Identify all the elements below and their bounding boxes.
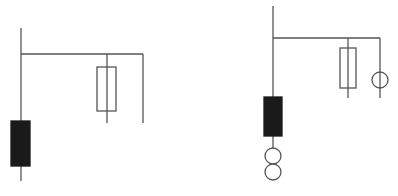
left-dark-block-symbol xyxy=(11,121,30,166)
transformer-coil-lower xyxy=(265,164,281,180)
left-circuit xyxy=(11,28,143,181)
transformer-coil-upper xyxy=(265,148,281,164)
right-dark-block-symbol xyxy=(264,97,282,136)
right-circuit xyxy=(264,6,388,180)
circuit-diagram-canvas xyxy=(0,0,398,196)
